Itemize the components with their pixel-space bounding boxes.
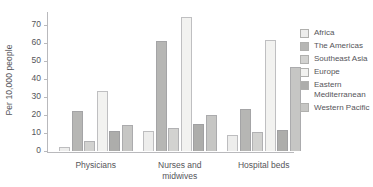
bar-group [143,12,217,151]
x-axis-group-label: Hospital beds [209,160,319,171]
y-axis-title-text: Per 10,000 people [4,44,14,115]
bar [193,124,204,151]
legend-swatch-icon [300,68,309,77]
y-axis-line [47,12,48,152]
y-axis-tick-mark [44,151,47,152]
y-axis-tick-mark [44,79,47,80]
bar [277,130,288,151]
bar [72,111,83,151]
legend-item[interactable]: Europe [300,67,373,77]
bar [206,115,217,151]
bar [143,131,154,151]
bar [290,67,301,151]
x-axis-line [47,152,294,153]
bar-group [59,12,133,151]
plot-area: 010203040506070 PhysiciansNurses and mid… [47,12,294,152]
legend-swatch-icon [300,42,309,51]
legend-item-label: The Americas [314,41,363,51]
y-axis-tick-label: 10 [32,127,41,138]
legend-item[interactable]: Southeast Asia [300,54,373,64]
bar [252,132,263,151]
bar [84,141,95,151]
y-axis-tick-label: 0 [36,145,41,156]
legend-item-label: Africa [314,28,334,38]
y-axis-tick-label: 20 [32,109,41,120]
bar-chart-figure: Per 10,000 people 010203040506070 Physic… [0,0,373,187]
bar [168,128,179,151]
legend-item[interactable]: The Americas [300,41,373,51]
bar [227,135,238,151]
y-axis-tick-label: 70 [32,19,41,30]
legend-item[interactable]: Eastern Mediterranean [300,80,373,99]
y-axis-tick-mark [44,115,47,116]
bar [122,125,133,151]
legend-swatch-icon [300,81,309,90]
y-axis-tick-mark [44,25,47,26]
legend-swatch-icon [300,29,309,38]
legend-item-label: Southeast Asia [314,54,367,64]
bar [181,17,192,151]
legend-item-label: Europe [314,67,340,77]
bar-group [227,12,301,151]
y-axis-tick-mark [44,133,47,134]
legend: AfricaThe AmericasSoutheast AsiaEuropeEa… [300,28,373,116]
bar [97,91,108,151]
y-axis-tick-label: 50 [32,55,41,66]
legend-item-label: Eastern Mediterranean [314,80,366,99]
y-axis-tick-mark [44,43,47,44]
y-axis-tick-label: 60 [32,37,41,48]
y-axis-tick-mark [44,61,47,62]
legend-item[interactable]: Africa [300,28,373,38]
bar [156,41,167,151]
y-axis-tick-label: 30 [32,91,41,102]
bar [59,147,70,151]
y-axis-tick-label: 40 [32,73,41,84]
y-axis-title: Per 10,000 people [0,0,18,160]
legend-item[interactable]: Western Pacific [300,103,373,113]
y-axis-tick-mark [44,97,47,98]
legend-swatch-icon [300,103,309,112]
legend-swatch-icon [300,55,309,64]
bar [240,109,251,151]
bar [265,40,276,151]
bar [109,131,120,151]
legend-item-label: Western Pacific [314,103,369,113]
